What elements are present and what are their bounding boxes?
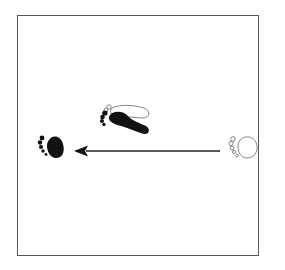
- stationary-foot-filled-icon: [100, 110, 149, 134]
- start-foot-outline-icon: [229, 137, 257, 158]
- direction-arrow-icon: [74, 146, 220, 157]
- end-foot-filled-icon: [38, 136, 64, 158]
- footwork-diagram: [0, 0, 285, 270]
